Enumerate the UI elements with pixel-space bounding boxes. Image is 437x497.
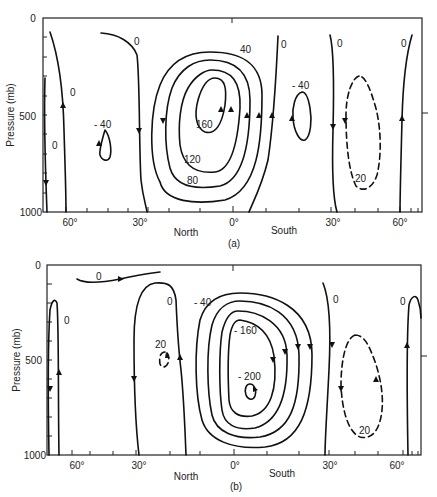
arrow-down-icon <box>131 376 137 382</box>
label-b-right-0: 0 <box>400 296 406 307</box>
label-a-hadley-40: 40 <box>240 44 252 55</box>
label-a-north-neg40: - 40 <box>94 119 112 130</box>
arrow-up-icon <box>218 106 224 112</box>
label-b-north-0: 0 <box>167 296 173 307</box>
panel-a: 0 500 1000 Pressure (mb) 60° 30° 0° 30° … <box>5 13 428 249</box>
panel-a-x-tick-30s: 30° <box>325 217 340 228</box>
panel-a-y-ticks <box>43 18 428 193</box>
panel-b-y-tick-500: 500 <box>25 355 42 366</box>
arrow-down-icon <box>338 386 344 392</box>
label-a-south-0-a: 0 <box>281 39 287 50</box>
arrow-up-icon <box>269 112 275 118</box>
panel-b-y-tick-1000: 1000 <box>24 450 47 461</box>
contour-a-left-edge <box>45 78 47 212</box>
panel-b-y-axis-label: Pressure (mb) <box>11 328 22 391</box>
label-b-hadley-neg160: - 160 <box>234 325 257 336</box>
contour-b-left-loop <box>48 300 59 455</box>
panel-a-y-tick-0: 0 <box>30 13 36 24</box>
contour-b-right-loop <box>407 297 421 455</box>
panel-b-x-ticks <box>72 449 418 455</box>
arrow-down-icon <box>295 344 301 350</box>
arrow-down-icon <box>330 124 336 130</box>
panel-b: 0 500 1000 Pressure (mb) 60° 30° 0° 30° … <box>11 260 427 492</box>
panel-b-x-tick-60n: 60° <box>69 460 84 471</box>
panel-b-x-tick-30s: 30° <box>322 460 337 471</box>
meridional-circulation-figure: 0 500 1000 Pressure (mb) 60° 30° 0° 30° … <box>0 0 437 497</box>
panel-a-x-tick-30n: 30° <box>132 217 147 228</box>
label-a-south-0-c: 0 <box>401 38 407 49</box>
contour-b-neg200 <box>245 384 255 399</box>
arrow-down-icon <box>136 128 142 134</box>
arrow-up-icon <box>289 115 295 121</box>
panel-a-y-axis-label: Pressure (mb) <box>5 83 16 146</box>
label-a-hadley-80: 80 <box>187 175 199 186</box>
label-a-south-neg40: - 40 <box>292 80 310 91</box>
panel-b-x-tick-60s: 60° <box>389 460 404 471</box>
label-b-hadley-neg40: - 40 <box>194 297 212 308</box>
contour-a-60n <box>50 32 66 212</box>
panel-a-x-tick-60n: 60° <box>62 217 77 228</box>
contour-b-20-dashed-south <box>341 335 382 438</box>
panel-a-south-label: South <box>271 225 297 236</box>
arrow-up-icon <box>399 115 405 121</box>
label-a-left-outer-0: 0 <box>52 140 58 151</box>
contour-b-north-0 <box>134 283 186 455</box>
label-a-left-inner-0: 0 <box>70 87 76 98</box>
arrow-down-icon <box>43 180 49 186</box>
arrow-up-icon <box>60 102 66 108</box>
panel-a-y-tick-1000: 1000 <box>20 207 43 218</box>
arrow-down-icon <box>342 118 348 124</box>
panel-a-x-ticks <box>66 206 418 212</box>
contour-a-0-eq-south <box>249 36 278 212</box>
panel-b-x-tick-0: 0° <box>230 460 240 471</box>
panel-a-caption: (a) <box>228 238 240 249</box>
arrow-right-icon <box>118 276 124 282</box>
arrow-up-icon <box>56 369 62 375</box>
label-b-south-dashed-20: 20 <box>359 425 371 436</box>
contour-b-neg80 <box>208 301 299 438</box>
panel-a-x-tick-0: 0° <box>229 217 239 228</box>
label-a-south-0-b: 0 <box>337 38 343 49</box>
label-b-north-dashed-20: 20 <box>155 339 167 350</box>
arrow-up-icon <box>373 376 379 382</box>
label-a-south-dashed-20: 20 <box>355 173 367 184</box>
panel-b-north-label: North <box>174 471 198 482</box>
panel-b-south-label: South <box>269 468 295 479</box>
panel-a-x-tick-60s: 60° <box>392 217 407 228</box>
label-a-north-mid-0: 0 <box>134 36 140 47</box>
contour-a-neg40-south <box>293 92 311 140</box>
label-b-south-0: 0 <box>333 294 339 305</box>
contour-a-60s <box>400 35 412 212</box>
panel-a-north-label: North <box>174 227 198 238</box>
panel-b-caption: (b) <box>230 481 242 492</box>
label-b-top-0: 0 <box>96 271 102 282</box>
contour-a-30s <box>330 35 337 212</box>
arrow-up-icon <box>404 342 410 348</box>
label-b-hadley-neg200: - 200 <box>238 371 261 382</box>
panel-a-y-tick-500: 500 <box>19 111 36 122</box>
label-a-hadley-160: 160 <box>196 119 213 130</box>
panel-b-y-tick-0: 0 <box>35 260 41 271</box>
panel-b-x-tick-30n: 30° <box>131 460 146 471</box>
label-b-left-0: 0 <box>64 315 70 326</box>
arrow-up-icon <box>177 354 183 360</box>
arrow-up-icon <box>228 106 234 112</box>
label-a-hadley-120: 120 <box>184 154 201 165</box>
contour-b-south-0 <box>323 283 330 455</box>
